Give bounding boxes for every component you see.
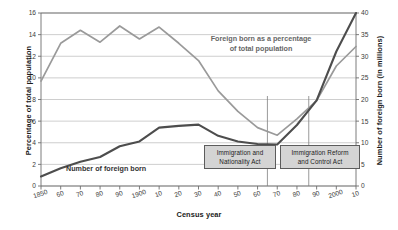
y-axis-left-tick-label: 6 — [32, 118, 36, 125]
x-axis-tick-label: 80 — [292, 189, 301, 198]
x-axis-tick-label: 90 — [311, 189, 320, 198]
annotation-immigration-reform-and-control-act: Immigration Reform and Control Act — [280, 145, 360, 169]
x-axis-tick-label: 10 — [154, 189, 163, 198]
x-axis-tick-label: 10 — [351, 189, 360, 198]
y-axis-right-tick-label: 0 — [361, 182, 365, 189]
x-axis-tick-label: 70 — [75, 189, 84, 198]
annotation-irca-line1: Immigration Reform — [281, 149, 359, 158]
x-axis-tick-label: 2000 — [327, 188, 343, 199]
x-axis-tick-label: 1850 — [32, 188, 48, 199]
x-axis-tick-label: 40 — [213, 189, 222, 198]
y-axis-left-tick-label: 0 — [32, 182, 36, 189]
x-axis-tick-label: 80 — [95, 189, 104, 198]
y-axis-right-tick-label: 20 — [361, 96, 369, 103]
series-label-percentage-line2: of total population — [186, 44, 336, 54]
y-axis-right-tick-label: 10 — [361, 139, 369, 146]
y-axis-right-tick-label: 40 — [361, 9, 369, 16]
x-axis-tick-label: 60 — [252, 189, 261, 198]
series-label-percentage: Foreign born as a percentage of total po… — [186, 34, 336, 53]
y-axis-left-tick-label: 4 — [32, 139, 36, 146]
y-axis-right-title: Number of foreign born (in millions) — [375, 21, 384, 181]
y-axis-right-tick-label: 30 — [361, 53, 369, 60]
x-axis-tick-label: 50 — [233, 189, 242, 198]
x-axis-tick-label: 70 — [272, 189, 281, 198]
x-axis-tick-label: 90 — [114, 189, 123, 198]
y-axis-right-tick-label: 15 — [361, 118, 369, 125]
y-axis-left-tick-label: 16 — [29, 9, 37, 16]
y-axis-right-tick-label: 5 — [361, 161, 365, 168]
y-axis-left-tick-label: 8 — [32, 96, 36, 103]
y-axis-right-tick-label: 35 — [361, 31, 369, 38]
x-axis-tick-label: 60 — [55, 189, 64, 198]
annotation-immigration-and-nationality-act: Immigration and Nationality Act — [204, 145, 276, 169]
x-axis-title: Census year — [0, 210, 398, 219]
annotation-irca-line2: and Control Act — [281, 158, 359, 167]
y-axis-right-tick-label: 25 — [361, 74, 369, 81]
x-axis-tick-label: 1900 — [131, 188, 147, 199]
annotation-ina-line1: Immigration and — [205, 149, 275, 158]
chart-container: 0246810121416051015202530354018506070809… — [0, 0, 398, 230]
annotation-ina-line2: Nationality Act — [205, 158, 275, 167]
y-axis-left-title: Percentage of total population — [24, 26, 33, 176]
x-axis-tick-label: 30 — [193, 189, 202, 198]
y-axis-left-tick-label: 2 — [32, 161, 36, 168]
series-label-number: Number of foreign born — [66, 164, 196, 174]
series-label-percentage-line1: Foreign born as a percentage — [186, 34, 336, 44]
x-axis-tick-label: 20 — [173, 189, 182, 198]
